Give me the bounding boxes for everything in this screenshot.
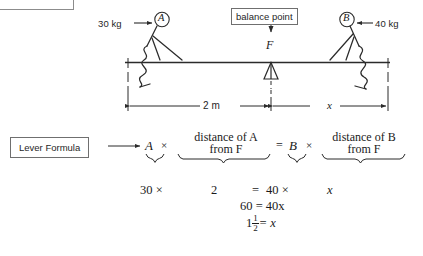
- fulcrum-label: F: [266, 38, 273, 53]
- work-line-3: 112= x: [246, 214, 276, 233]
- work-b-value: 40 ×: [266, 183, 289, 198]
- extension-lines: [128, 58, 388, 101]
- formula-distance-b-line2: from F: [322, 143, 406, 157]
- formula-times-2: ×: [306, 139, 312, 151]
- person-b-label: B: [343, 12, 349, 23]
- formula-distance-a-line2-text: from F: [210, 142, 243, 156]
- work-line-2: 60 = 40x: [240, 199, 285, 214]
- mass-left-label: 30 kg: [98, 18, 122, 29]
- formula-term-a: A: [145, 138, 153, 154]
- underbrace-a-term: [146, 154, 164, 162]
- work-distance-b: x: [327, 183, 333, 198]
- mass-right-label: 40 kg: [375, 18, 399, 29]
- formula-term-b: B: [289, 138, 297, 154]
- formula-distance-a-line2: from F: [178, 143, 274, 157]
- diagram-vectors: [0, 0, 423, 256]
- underbrace-b-term: [288, 154, 306, 162]
- work-distance-a: 2: [211, 183, 217, 198]
- person-a-label: A: [158, 12, 164, 23]
- distance-2m-label: 2 m: [203, 100, 220, 111]
- formula-distance-b-line2-text: from F: [348, 142, 381, 156]
- formula-times-1: ×: [161, 139, 167, 151]
- person-b-figure: [330, 12, 367, 89]
- work-line-3-tail: = x: [259, 216, 276, 230]
- distance-x-label: x: [327, 99, 332, 111]
- formula-equals: =: [276, 138, 283, 153]
- dimension-2m: [128, 101, 271, 111]
- lever-formula-callout: Lever Formula: [10, 137, 89, 158]
- fulcrum-triangle: [264, 63, 278, 80]
- work-a-value: 30 ×: [140, 183, 163, 198]
- figure-canvas: balance point 30 kg 40 kg A B F 2 m x Le…: [0, 0, 423, 256]
- work-equals: =: [252, 183, 259, 198]
- work-line-2-text: 60 = 40x: [240, 199, 285, 213]
- balance-point-label: balance point: [231, 8, 298, 25]
